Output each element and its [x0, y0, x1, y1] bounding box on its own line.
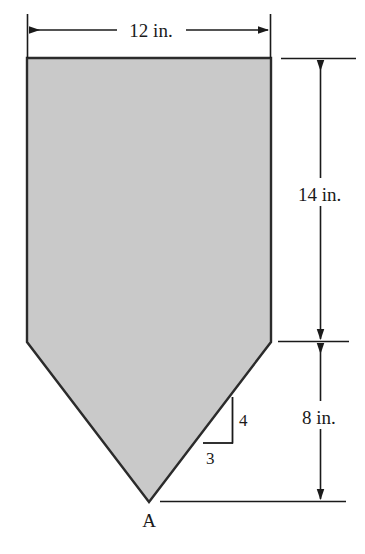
- slope-triangle-rise-label: 4: [239, 411, 248, 430]
- vertex-label-a: A: [142, 510, 156, 531]
- dimension-label-top-width: 12 in.: [129, 20, 172, 41]
- figure-canvas: 12 in. 14 in. 8 in. 4 3 A: [0, 0, 365, 554]
- dimension-label-upper-height: 14 in.: [298, 184, 341, 205]
- dimension-label-lower-height: 8 in.: [302, 407, 336, 428]
- pentagon-shield-shape: [27, 58, 271, 502]
- slope-triangle-run-label: 3: [206, 449, 215, 468]
- geometry-figure: 12 in. 14 in. 8 in. 4 3 A: [0, 0, 365, 554]
